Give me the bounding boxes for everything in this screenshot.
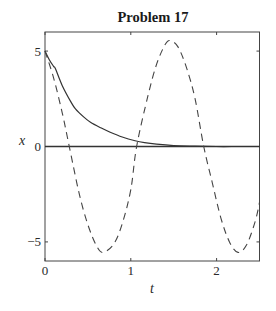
- x-tick-label: 0: [42, 263, 49, 278]
- chart-title: Problem 17: [117, 9, 188, 25]
- chart: Problem 17 012−505 x t: [0, 0, 276, 311]
- tick-labels: 012−505: [27, 44, 220, 278]
- x-tick-label: 1: [128, 263, 135, 278]
- y-tick-label: −5: [27, 234, 41, 249]
- solid-curve: [45, 51, 260, 146]
- y-tick-label: 5: [35, 44, 42, 59]
- x-tick-label: 2: [213, 263, 220, 278]
- y-tick-label: 0: [35, 139, 42, 154]
- y-axis-label: x: [18, 133, 26, 148]
- x-axis-label: t: [150, 281, 155, 296]
